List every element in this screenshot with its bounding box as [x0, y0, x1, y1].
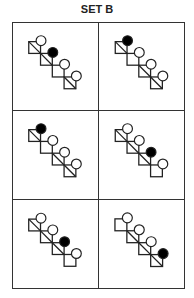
filled-circle — [36, 124, 46, 134]
open-circle — [71, 248, 81, 258]
staircase-figure — [99, 111, 185, 198]
figure-cell-5 — [13, 200, 99, 288]
figure-cell-2 — [99, 23, 185, 111]
open-circle — [134, 48, 144, 58]
open-circle — [48, 136, 58, 146]
open-circle — [122, 213, 132, 223]
open-circle — [71, 71, 81, 81]
staircase-figure — [13, 23, 98, 110]
open-circle — [146, 236, 156, 246]
figure-cell-4 — [99, 111, 185, 199]
staircase-figure — [13, 200, 98, 288]
open-circle — [71, 159, 81, 169]
filled-circle — [48, 48, 58, 58]
staircase-figure — [99, 23, 185, 110]
open-circle — [157, 71, 167, 81]
open-circle — [157, 159, 167, 169]
open-circle — [48, 225, 58, 235]
open-circle — [146, 59, 156, 69]
figure-cell-3 — [13, 111, 99, 199]
open-circle — [134, 224, 144, 234]
open-circle — [36, 213, 46, 223]
figure-grid — [12, 22, 185, 289]
filled-circle — [146, 148, 156, 158]
open-circle — [60, 148, 70, 158]
staircase-figure — [99, 200, 185, 288]
filled-circle — [60, 236, 70, 246]
figure-cell-1 — [13, 23, 99, 111]
filled-circle — [122, 36, 132, 46]
open-circle — [60, 59, 70, 69]
open-circle — [122, 124, 132, 134]
set-title: SET B — [0, 3, 194, 15]
staircase-figure — [13, 111, 98, 198]
filled-circle — [158, 248, 168, 258]
figure-cell-6 — [99, 200, 185, 288]
open-circle — [36, 36, 46, 46]
open-circle — [134, 136, 144, 146]
